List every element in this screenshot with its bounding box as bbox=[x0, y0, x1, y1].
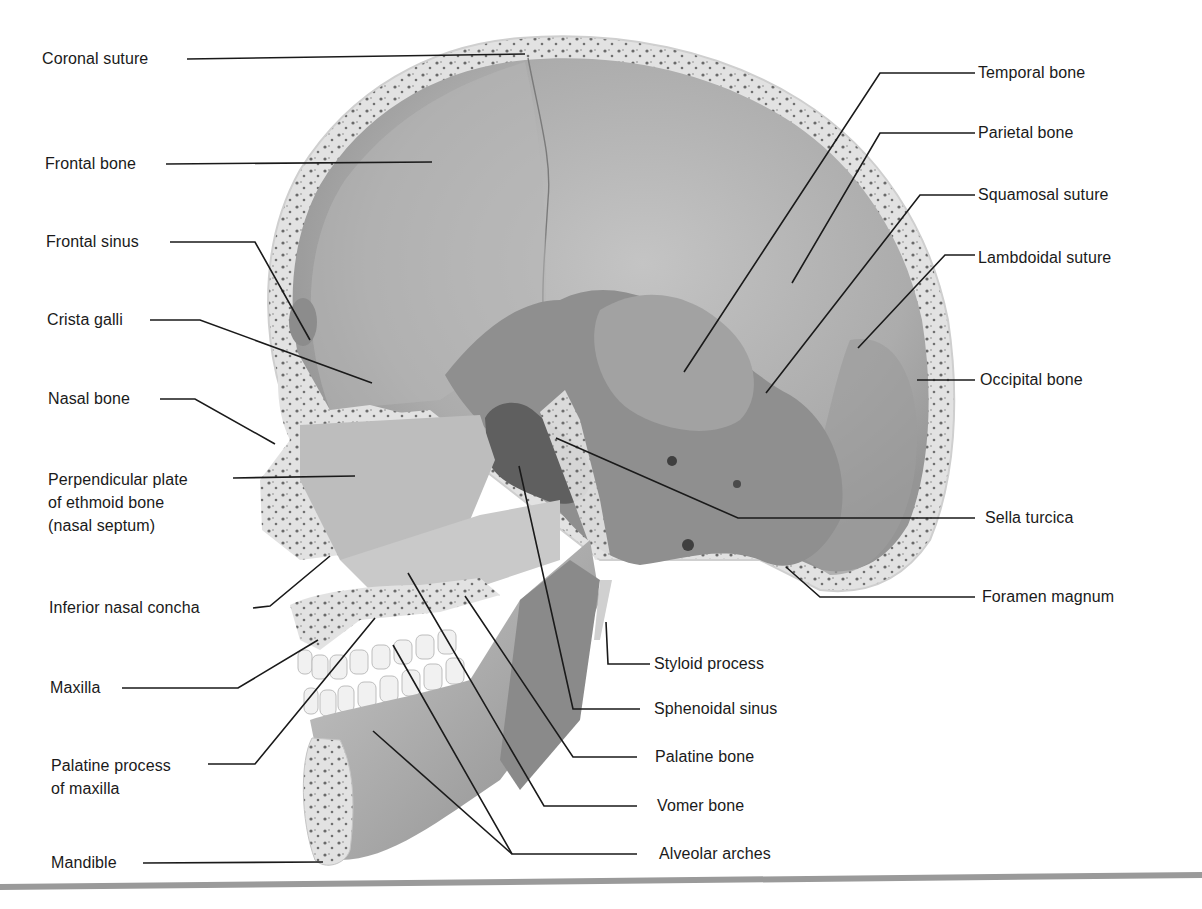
label-inferior-nasal-concha: Inferior nasal concha bbox=[49, 598, 200, 618]
label-squamosal-suture: Squamosal suture bbox=[978, 185, 1109, 205]
label-perpendicular-plate: Perpendicular plate of ethmoid bone (nas… bbox=[48, 468, 188, 537]
label-mandible: Mandible bbox=[51, 853, 117, 873]
label-sphenoidal-sinus: Sphenoidal sinus bbox=[654, 699, 777, 719]
label-sella-turcica: Sella turcica bbox=[985, 508, 1073, 528]
label-parietal-bone: Parietal bone bbox=[978, 123, 1074, 143]
label-foramen-magnum: Foramen magnum bbox=[982, 587, 1114, 607]
skull-diagram: Coronal suture Frontal bone Frontal sinu… bbox=[0, 0, 1202, 909]
label-temporal-bone: Temporal bone bbox=[978, 63, 1085, 83]
label-palatine-process: Palatine process of maxilla bbox=[51, 754, 171, 800]
label-occipital-bone: Occipital bone bbox=[980, 370, 1083, 390]
bottom-rule bbox=[0, 872, 1202, 890]
label-lambdoidal-suture: Lambdoidal suture bbox=[978, 248, 1111, 268]
label-styloid-process: Styloid process bbox=[654, 654, 764, 674]
label-nasal-bone: Nasal bone bbox=[48, 389, 130, 409]
label-palatine-bone: Palatine bone bbox=[655, 747, 754, 767]
label-frontal-bone: Frontal bone bbox=[45, 154, 136, 174]
label-alveolar-arches: Alveolar arches bbox=[659, 844, 771, 864]
label-frontal-sinus: Frontal sinus bbox=[46, 232, 139, 252]
label-crista-galli: Crista galli bbox=[47, 310, 123, 330]
label-vomer-bone: Vomer bone bbox=[657, 796, 744, 816]
label-maxilla: Maxilla bbox=[50, 678, 101, 698]
label-coronal-suture: Coronal suture bbox=[42, 49, 148, 69]
